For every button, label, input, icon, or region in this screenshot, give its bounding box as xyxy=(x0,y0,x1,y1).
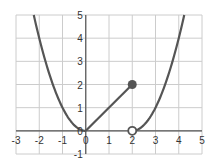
x-tick-label: -1 xyxy=(58,135,67,146)
y-tick-label: 4 xyxy=(77,33,83,44)
open-point-marker xyxy=(128,127,136,135)
grid-lines xyxy=(16,15,202,154)
y-tick-label: 1 xyxy=(77,103,83,114)
y-tick-label: 5 xyxy=(77,10,83,21)
filled-point-marker xyxy=(128,80,137,89)
x-tick-label: -2 xyxy=(35,135,44,146)
x-tick-label: 4 xyxy=(176,135,182,146)
right-parabola-curve xyxy=(132,15,184,131)
x-tick-label: -3 xyxy=(12,135,21,146)
y-tick-label: 2 xyxy=(77,80,83,91)
x-tick-label: 5 xyxy=(199,135,205,146)
piecewise-function-graph: -3-2-1012345543210-1 xyxy=(0,0,211,164)
y-tick-label: -1 xyxy=(74,149,83,160)
y-tick-label: 3 xyxy=(77,56,83,67)
y-tick-label: 0 xyxy=(77,126,83,137)
x-tick-label: 0 xyxy=(83,135,89,146)
x-tick-label: 3 xyxy=(153,135,159,146)
x-tick-label: 1 xyxy=(106,135,112,146)
x-tick-label: 2 xyxy=(129,135,135,146)
